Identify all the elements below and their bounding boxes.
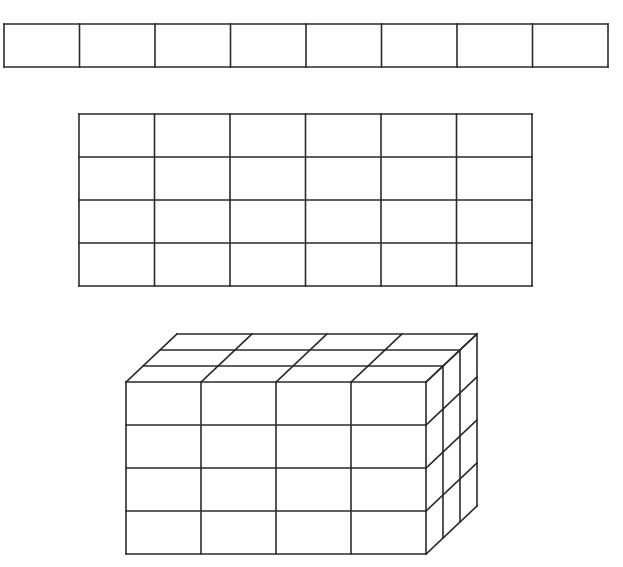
side-receding-line — [426, 420, 477, 468]
strip-1x8 — [4, 24, 608, 67]
side-receding-line — [426, 334, 477, 382]
figure-canvas — [0, 0, 623, 567]
side-receding-line — [426, 506, 477, 554]
rectangular-prism-4x4x3 — [126, 334, 477, 554]
top-receding-line — [201, 334, 252, 382]
top-receding-line — [276, 334, 327, 382]
top-receding-line — [351, 334, 402, 382]
grid-4x6 — [79, 114, 532, 286]
top-receding-line — [126, 334, 177, 382]
side-receding-line — [426, 377, 477, 425]
side-receding-line — [426, 463, 477, 511]
